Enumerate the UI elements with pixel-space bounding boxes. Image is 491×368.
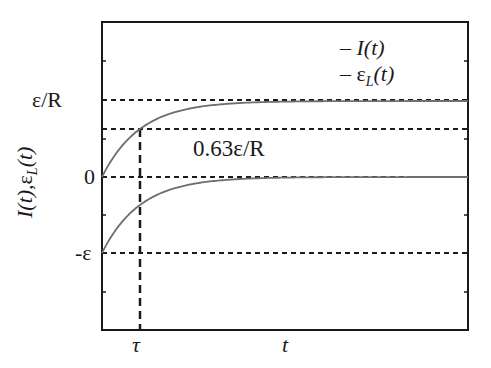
y-tick-eps-over-r: ε/R	[32, 89, 62, 111]
x-axis-label-t: t	[282, 334, 288, 356]
y-axis-label: I(t),εL(t)	[14, 147, 40, 218]
annotation-063-eps-over-r: 0.63ε/R	[193, 137, 265, 160]
x-tick-tau: τ	[132, 334, 140, 356]
plot-area	[0, 0, 491, 368]
legend-entry-emf: – εL(t)	[340, 63, 394, 89]
curve-current	[102, 101, 468, 177]
y-tick-zero: 0	[84, 166, 95, 188]
legend-entry-current: – I(t)	[340, 37, 385, 59]
curve-emf	[102, 177, 468, 253]
y-tick-neg-eps: -ε	[75, 242, 92, 264]
